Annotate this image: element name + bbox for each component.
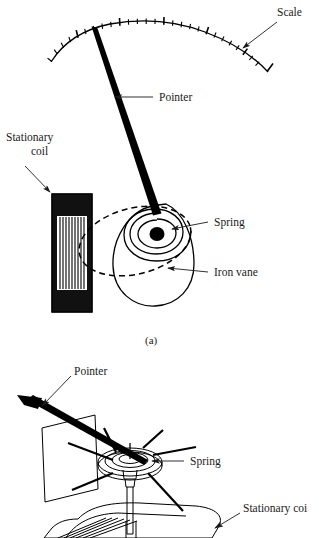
label-stationary-coil-b: Stationary coi [243,502,307,515]
label-stationary-coil-a-line1: Stationary [6,131,54,144]
stationary-coil [52,194,92,312]
label-pointer-a: Pointer [159,91,192,103]
figure-root: Scale Pointer Stationary coil Spring [0,0,319,538]
label-scale: Scale [277,6,302,18]
moving-iron-instrument-diagram: Scale Pointer Stationary coil Spring [0,0,319,538]
canvas-background [0,0,319,538]
label-pointer-b: Pointer [74,365,107,377]
label-spring-a: Spring [214,216,245,229]
label-stationary-coil-a-line2: coil [31,145,48,157]
spring-hub [150,227,165,241]
caption-panel-a: (a) [145,334,158,347]
label-spring-b: Spring [190,455,221,468]
label-iron-vane: Iron vane [214,266,258,278]
